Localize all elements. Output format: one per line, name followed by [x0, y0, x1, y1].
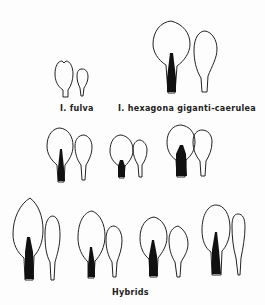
- hybrid-4-petal: [45, 216, 60, 280]
- hybrid-3-petal: [193, 130, 212, 176]
- hybrid-3-signal: [176, 145, 187, 176]
- hybrid-7-pair: [202, 205, 245, 275]
- hybrid-3-pair: [167, 125, 212, 177]
- hexagona-pair: [153, 21, 217, 93]
- hybrids-label: Hybrids: [112, 288, 149, 297]
- hybrid-1-petal: [75, 135, 92, 180]
- iris-petal-figure: I. fulva I. hexagona giganti-caerulea Hy…: [0, 0, 265, 305]
- hybrid-6-signal: [149, 240, 158, 276]
- hexagona-petal: [194, 31, 217, 92]
- fulva-label: I. fulva: [60, 104, 94, 113]
- hybrid-2-signal: [118, 160, 125, 177]
- hybrid-5-petal: [106, 226, 122, 277]
- hybrid-2-petal: [133, 140, 147, 177]
- hybrid-7-petal: [232, 214, 245, 275]
- hybrid-1-pair: [47, 128, 92, 182]
- petal-drawings: [0, 0, 265, 305]
- hybrid-1-signal: [58, 149, 65, 181]
- hybrid-5-signal: [88, 247, 95, 277]
- fulva-petal: [77, 69, 88, 96]
- hybrid-4-pair: [13, 198, 60, 280]
- fulva-sepal: [55, 61, 73, 97]
- hybrid-7-signal: [212, 232, 221, 274]
- hybrid-6-petal: [169, 226, 188, 277]
- hybrid-2-pair: [110, 135, 147, 178]
- hybrid-4-signal: [25, 237, 34, 279]
- fulva-pair: [55, 61, 88, 97]
- hexagona-label: I. hexagona giganti-caerulea: [118, 104, 256, 113]
- hybrid-5-pair: [78, 211, 122, 278]
- hybrid-6-pair: [140, 217, 188, 277]
- hexagona-signal: [167, 53, 176, 92]
